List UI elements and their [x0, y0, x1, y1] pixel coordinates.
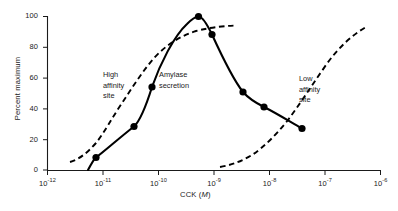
annotation-amylase-secretion: Amylase secretion	[159, 70, 189, 91]
data-point	[148, 83, 155, 90]
chart-figure: Percent maximum 100 80 60 40 20 0 10-12 …	[0, 0, 398, 211]
annotation-line: site	[103, 91, 124, 102]
x-tick-label-1e-12: 10-12	[28, 177, 68, 188]
annotation-line: Amylase	[159, 70, 189, 81]
annotation-line: affinity	[103, 81, 124, 92]
x-axis-ticks	[48, 171, 381, 176]
y-tick-label-0: 0	[12, 165, 38, 174]
curve-high-affinity-site	[70, 26, 236, 163]
annotation-line: affinity	[299, 85, 320, 96]
y-tick-label-60: 60	[12, 73, 38, 82]
data-point	[195, 13, 202, 20]
x-tick-label-1e-8: 10-8	[250, 177, 290, 188]
data-point-markers	[92, 13, 305, 161]
annotation-line: secretion	[159, 81, 189, 92]
x-axis-title: CCK (M)	[180, 190, 211, 199]
curve-low-affinity-site	[220, 27, 366, 167]
data-point	[92, 154, 99, 161]
annotation-low-affinity-site: Low affinity site	[299, 74, 320, 106]
x-tick-label-1e-6: 10-6	[361, 177, 398, 188]
data-point	[260, 103, 267, 110]
y-tick-label-80: 80	[12, 42, 38, 51]
y-tick-label-100: 100	[12, 11, 38, 20]
y-tick-label-20: 20	[12, 135, 38, 144]
annotation-high-affinity-site: High affinity site	[103, 70, 124, 102]
annotation-line: Low	[299, 74, 320, 85]
y-axis-title: Percent maximum	[13, 44, 22, 134]
x-tick-label-1e-11: 10-11	[83, 177, 123, 188]
data-point	[239, 88, 246, 95]
annotation-line: site	[299, 95, 320, 106]
y-axis-ticks	[43, 17, 48, 171]
y-tick-label-40: 40	[12, 104, 38, 113]
x-tick-label-1e-9: 10-9	[194, 177, 234, 188]
data-point	[130, 123, 137, 130]
x-tick-label-1e-7: 10-7	[305, 177, 345, 188]
data-point	[298, 125, 305, 132]
annotation-line: High	[103, 70, 124, 81]
data-point	[208, 31, 215, 38]
x-tick-label-1e-10: 10-10	[139, 177, 179, 188]
